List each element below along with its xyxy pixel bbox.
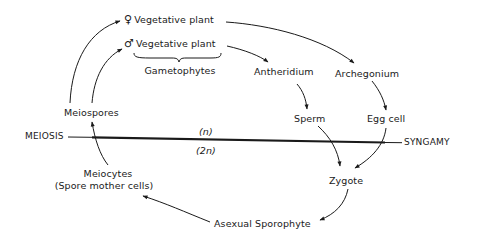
female-vegetative-plant: ♀Vegetative plant [124,14,214,25]
male-vegetative-plant: ♂Vegetative plant [124,38,216,49]
arrow-archegonium-to-egg [372,81,386,110]
divider-line-main [92,137,385,142]
meiospores-label: Meiospores [64,107,119,118]
meiocytes-sublabel: (Spore mother cells) [55,180,154,191]
diagram-connectors [0,0,480,242]
antheridium-label: Antheridium [254,66,314,77]
female-plant-label: Vegetative plant [134,14,214,25]
syngamy-label: SYNGAMY [404,137,450,148]
diploid-label: (2n) [196,145,216,156]
meiosis-label: MEIOSIS [25,131,64,142]
egg-cell-label: Egg cell [367,113,405,124]
gametophytes-brace [134,53,221,62]
arrow-meiospores-to-male [92,49,122,103]
arrow-female-to-archegonium [226,22,354,63]
meiocytes-label: Meiocytes [84,168,133,179]
life-cycle-diagram: ♀Vegetative plant ♂Vegetative plant Game… [0,0,480,242]
sperm-label: Sperm [294,113,325,124]
asexual-sporophyte-label: Asexual Sporophyte [214,218,311,229]
archegonium-label: Archegonium [335,68,399,79]
arrow-sporophyte-to-meiocytes [143,196,210,222]
female-symbol-icon: ♀ [124,13,132,26]
haploid-label: (n) [199,126,213,137]
zygote-label: Zygote [329,175,363,186]
gametophytes-label: Gametophytes [144,65,215,76]
arrow-antheridium-to-sperm [297,84,307,109]
arrow-meiocytes-to-meiospores [92,122,108,165]
male-symbol-icon: ♂ [124,37,134,50]
arrow-zygote-to-sporophyte [320,189,348,220]
arrow-male-to-antheridium [227,46,268,62]
male-plant-label: Vegetative plant [136,38,216,49]
arrow-sperm-to-zygote [318,126,340,166]
arrow-meiospores-to-female [70,21,120,103]
arrow-egg-to-zygote [355,128,386,168]
